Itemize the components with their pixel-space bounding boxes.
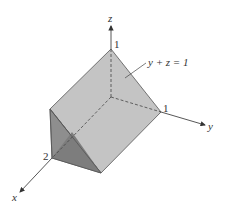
- z-axis-label: z: [107, 12, 113, 24]
- y-tick-label: 1: [163, 102, 169, 114]
- x-axis-label: x: [11, 191, 17, 203]
- z-tick-label: 1: [114, 38, 120, 50]
- prism-diagram: z 1 y + z = 1 1 y 2 x: [0, 0, 225, 208]
- plane-label: y + z = 1: [147, 56, 189, 68]
- x-tick-label: 2: [43, 150, 49, 162]
- y-axis-label: y: [207, 120, 213, 132]
- x-axis: [20, 158, 52, 192]
